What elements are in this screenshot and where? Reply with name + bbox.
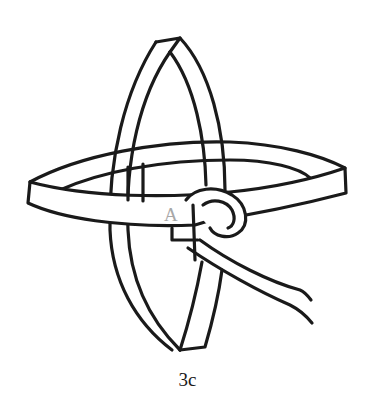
figure-caption: 3c bbox=[0, 370, 375, 389]
knot-diagram: A 3c bbox=[0, 0, 375, 416]
cord-tail-lower bbox=[188, 248, 312, 323]
vertical-loop-top-cap bbox=[156, 38, 180, 52]
marker-label-a: A bbox=[164, 205, 178, 224]
interlocking-loops-illustration bbox=[0, 0, 375, 416]
vertical-loop-lower-inner bbox=[180, 262, 202, 350]
cord-tail-upper bbox=[200, 240, 311, 300]
vertical-loop-lower-right bbox=[180, 270, 222, 350]
vertical-loop-right-outer bbox=[180, 38, 225, 190]
cord-band-left bbox=[193, 205, 195, 260]
